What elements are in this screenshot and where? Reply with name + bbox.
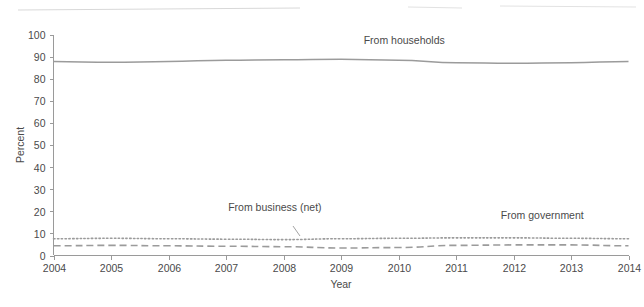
y-tick-label: 10 xyxy=(34,228,46,240)
y-tick-label: 70 xyxy=(34,95,46,107)
y-axis-tick-labels: 0102030405060708090100 xyxy=(28,29,46,262)
y-tick-label: 0 xyxy=(40,250,46,262)
x-tick-label: 2007 xyxy=(215,262,239,274)
chart-container: 0102030405060708090100 20042005200620072… xyxy=(0,0,644,307)
y-tick-label: 20 xyxy=(34,206,46,218)
x-tick-label: 2013 xyxy=(560,262,584,274)
business-leader-line xyxy=(293,226,300,236)
series-line-from-government xyxy=(54,245,629,248)
x-axis-title: Year xyxy=(330,278,352,290)
x-tick-label: 2009 xyxy=(330,262,354,274)
y-axis-title: Percent xyxy=(14,127,26,163)
series-annotation: From business (net) xyxy=(228,201,321,213)
y-tick-label: 30 xyxy=(34,184,46,196)
series-annotation: From households xyxy=(364,34,445,46)
y-tick-label: 100 xyxy=(28,29,46,41)
x-tick-label: 2011 xyxy=(445,262,468,274)
y-tick-label: 50 xyxy=(34,139,46,151)
x-tick-label: 2006 xyxy=(158,262,182,274)
x-axis-ticks xyxy=(55,256,630,260)
y-tick-label: 60 xyxy=(34,117,46,129)
series-line-from-business-net xyxy=(54,238,629,240)
series-annotation: From government xyxy=(501,209,584,221)
x-tick-label: 2014 xyxy=(618,262,642,274)
x-tick-label: 2004 xyxy=(43,262,67,274)
y-tick-label: 90 xyxy=(34,51,46,63)
x-tick-label: 2008 xyxy=(273,262,297,274)
series-annotations: From householdsFrom business (net)From g… xyxy=(228,34,584,221)
x-tick-label: 2012 xyxy=(503,262,527,274)
x-tick-label: 2010 xyxy=(388,262,412,274)
y-tick-label: 40 xyxy=(34,162,46,174)
x-tick-label: 2005 xyxy=(100,262,124,274)
series-line-from-households xyxy=(54,59,629,63)
scan-artifact-lines xyxy=(18,6,636,10)
y-axis-ticks xyxy=(50,36,54,257)
line-chart: 0102030405060708090100 20042005200620072… xyxy=(0,0,644,307)
x-axis-tick-labels: 2004200520062007200820092010201120122013… xyxy=(43,262,642,274)
y-tick-label: 80 xyxy=(34,73,46,85)
